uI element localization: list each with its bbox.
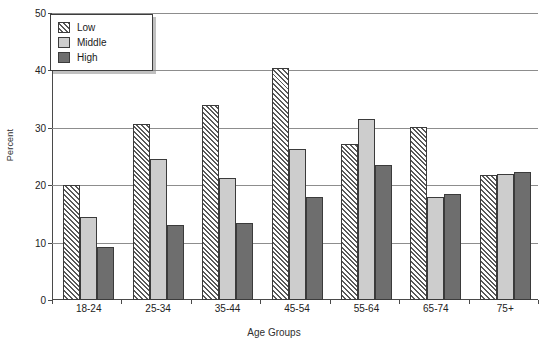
bar-middle <box>289 149 306 300</box>
legend-swatch-high-icon <box>58 52 70 63</box>
y-tick-label: 30 <box>35 122 46 133</box>
bar-group <box>202 13 253 300</box>
bar-group <box>410 13 461 300</box>
x-tick-mark <box>260 300 261 304</box>
bar-low <box>133 124 150 300</box>
legend-swatch-middle-icon <box>58 37 70 48</box>
x-tick-mark <box>538 300 539 304</box>
legend-item-high: High <box>58 50 146 65</box>
legend-swatch-low-icon <box>58 22 70 33</box>
bar-middle <box>219 178 236 300</box>
y-tick-label: 50 <box>35 8 46 19</box>
x-tick-mark <box>469 300 470 304</box>
bar-group <box>272 13 323 300</box>
bar-high <box>375 165 392 300</box>
bar-low <box>272 68 289 300</box>
bar-middle <box>497 174 514 300</box>
legend-item-middle: Middle <box>58 35 146 50</box>
bar-group <box>480 13 531 300</box>
x-tick-label: 45-54 <box>284 303 310 314</box>
bar-low <box>202 105 219 300</box>
bar-high <box>236 223 253 300</box>
x-tick-label: 75+ <box>497 303 514 314</box>
x-tick-label: 55-64 <box>354 303 380 314</box>
bar-low <box>410 127 427 300</box>
legend: Low Middle High <box>50 14 153 71</box>
x-tick-label: 65-74 <box>423 303 449 314</box>
legend-label-low: Low <box>77 22 95 33</box>
bar-high <box>97 247 114 300</box>
bar-group <box>341 13 392 300</box>
legend-item-low: Low <box>58 20 146 35</box>
x-tick-label: 25-34 <box>145 303 171 314</box>
bar-high <box>167 225 184 300</box>
bar-middle <box>427 197 444 300</box>
legend-label-middle: Middle <box>77 37 106 48</box>
bar-middle <box>150 159 167 300</box>
legend-label-high: High <box>77 52 98 63</box>
bar-middle <box>80 217 97 300</box>
y-axis-title: Percent <box>5 115 15 175</box>
x-tick-mark <box>52 300 53 304</box>
y-tick-label: 10 <box>35 237 46 248</box>
x-tick-mark <box>191 300 192 304</box>
bar-chart: Percent 01020304050 18-2425-3435-4445-54… <box>0 0 548 353</box>
y-tick-label: 0 <box>40 295 46 306</box>
bar-high <box>444 194 461 300</box>
x-tick-mark <box>399 300 400 304</box>
bar-low <box>341 144 358 300</box>
bar-high <box>514 172 531 300</box>
bar-high <box>306 197 323 300</box>
y-tick-label: 40 <box>35 65 46 76</box>
bar-low <box>63 185 80 300</box>
x-tick-mark <box>121 300 122 304</box>
y-tick-label: 20 <box>35 180 46 191</box>
bar-middle <box>358 119 375 300</box>
x-tick-label: 18-24 <box>76 303 102 314</box>
x-tick-mark <box>330 300 331 304</box>
x-tick-label: 35-44 <box>215 303 241 314</box>
bar-low <box>480 175 497 300</box>
x-axis-title: Age Groups <box>0 327 548 338</box>
